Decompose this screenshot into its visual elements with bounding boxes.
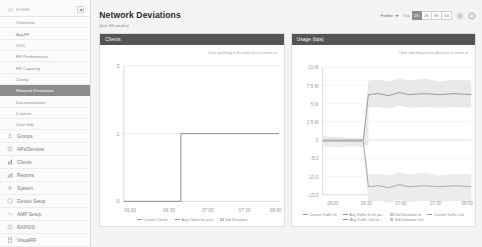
sidebar-item-label: System bbox=[17, 186, 33, 191]
folder-dropdown[interactable]: Folder bbox=[381, 13, 399, 18]
page-title: Network Deviations bbox=[99, 10, 181, 20]
sidebar-item-label: RAPIDS bbox=[17, 225, 35, 230]
sidebar-item-network-deviations[interactable]: Network Deviations bbox=[0, 85, 90, 96]
svg-text:07:30: 07:30 bbox=[239, 207, 251, 212]
legend-box-marker bbox=[220, 218, 223, 221]
panel-clients: Clients Click and drag in the plot area … bbox=[99, 33, 284, 227]
svg-text:06:30: 06:30 bbox=[360, 200, 372, 205]
sidebar-item-label: VisualRF bbox=[17, 238, 36, 243]
sidebar-item-visualrf[interactable]: VisualRF bbox=[0, 234, 90, 247]
svg-text:?: ? bbox=[471, 13, 474, 18]
legend-label: Avg Traffic Out for ... bbox=[350, 218, 384, 222]
svg-text:08:00: 08:00 bbox=[461, 200, 473, 205]
sidebar-item-overview[interactable]: Overview bbox=[0, 17, 90, 28]
sidebar-item-clients[interactable]: Clients bbox=[0, 156, 90, 169]
range-group-label: Top bbox=[403, 13, 410, 18]
device-setup-icon bbox=[7, 198, 13, 204]
legend-line-marker bbox=[303, 214, 308, 215]
groups-icon bbox=[7, 133, 13, 139]
sidebar-item-ucc[interactable]: UCC bbox=[0, 40, 90, 51]
range-button-2h[interactable]: 2h bbox=[412, 11, 422, 20]
clients-chart[interactable]: 2 1 0 06:00 06:30 07:00 07:30 08:00 bbox=[100, 45, 283, 217]
usage-chart[interactable]: 10 M 7.5 M 5 M 2.5 M 0 -5.0 -10.0 -15.0 bbox=[292, 45, 475, 212]
legend-box-marker bbox=[390, 213, 393, 216]
sidebar-header: HOME ◀ bbox=[0, 4, 90, 17]
legend-line-marker bbox=[427, 214, 432, 215]
sidebar-item-label: APs/Devices bbox=[17, 147, 44, 152]
clients-icon bbox=[7, 159, 13, 165]
svg-text:06:00: 06:00 bbox=[125, 207, 137, 212]
legend-item[interactable]: Current Traffic In bbox=[303, 213, 337, 217]
visualrf-icon bbox=[7, 237, 13, 243]
legend-item[interactable]: Current Traffic Out bbox=[427, 213, 464, 217]
chart-panels: Clients Click and drag in the plot area … bbox=[91, 28, 482, 227]
sidebar-item-apprf[interactable]: AppRF bbox=[0, 28, 90, 39]
legend-item[interactable]: Std Deviation bbox=[220, 218, 247, 222]
svg-text:-15.0: -15.0 bbox=[307, 192, 318, 197]
page-subtitle: (last 48 weeks) bbox=[99, 23, 181, 28]
svg-text:-10.0: -10.0 bbox=[307, 174, 318, 179]
sidebar-item-rapids[interactable]: RAPIDS bbox=[0, 221, 90, 234]
sidebar-item-documentation[interactable]: Documentation bbox=[0, 96, 90, 107]
svg-text:06:00: 06:00 bbox=[327, 200, 339, 205]
legend-dash-marker bbox=[343, 219, 348, 220]
legend-item[interactable]: Avg Traffic Out for ... bbox=[343, 218, 383, 222]
home-icon bbox=[8, 7, 13, 12]
device-icon bbox=[7, 146, 13, 152]
sidebar-item-system[interactable]: System bbox=[0, 182, 90, 195]
app-root: HOME ◀ Overview AppRF UCC RF Performance… bbox=[0, 0, 482, 247]
svg-text:08:00: 08:00 bbox=[270, 207, 282, 212]
panel-title-usage: Usage (bps) bbox=[292, 34, 475, 45]
rapids-icon bbox=[7, 224, 13, 230]
legend-item[interactable]: Avg Traffic In for pa... bbox=[343, 213, 385, 217]
gear-icon[interactable] bbox=[456, 12, 464, 20]
page-header: Network Deviations (last 48 weeks) Folde… bbox=[91, 0, 482, 28]
svg-text:5 M: 5 M bbox=[310, 101, 318, 106]
svg-text:-5.0: -5.0 bbox=[310, 156, 318, 161]
svg-text:10 M: 10 M bbox=[308, 65, 319, 70]
svg-text:07:00: 07:00 bbox=[395, 200, 407, 205]
sidebar-item-reports[interactable]: Reports bbox=[0, 169, 90, 182]
svg-text:2: 2 bbox=[117, 63, 120, 69]
legend-line-marker bbox=[137, 219, 142, 220]
range-button-8h[interactable]: 8h bbox=[432, 11, 442, 20]
legend-item[interactable]: Std Deviation In bbox=[390, 213, 421, 217]
sidebar-header-left: HOME bbox=[8, 7, 30, 12]
svg-text:07:00: 07:00 bbox=[202, 207, 214, 212]
sidebar: HOME ◀ Overview AppRF UCC RF Performance… bbox=[0, 0, 91, 247]
range-button-4h[interactable]: 4h bbox=[422, 11, 432, 20]
panel-body-clients[interactable]: Click and drag in the plot area to zoom … bbox=[100, 45, 283, 217]
sidebar-item-aps-devices[interactable]: APs/Devices bbox=[0, 143, 90, 156]
legend-item[interactable]: Current Clients bbox=[137, 218, 168, 222]
sidebar-item-groups[interactable]: Groups bbox=[0, 130, 90, 143]
legend-label: Std Deviation bbox=[225, 218, 247, 222]
folder-label: Folder bbox=[381, 13, 393, 18]
toolbar: Folder Top 2h 4h 8h 1d ? bbox=[381, 9, 476, 20]
svg-text:0: 0 bbox=[316, 138, 319, 143]
panel-title-clients: Clients bbox=[100, 34, 283, 45]
sidebar-item-label: AMP Setup bbox=[17, 212, 41, 217]
system-icon bbox=[7, 185, 13, 191]
legend-dash-marker bbox=[175, 219, 180, 220]
legend-item[interactable]: Std Deviation Out bbox=[390, 218, 424, 222]
legend-label: Std Deviation In bbox=[395, 213, 421, 217]
svg-text:2.5 M: 2.5 M bbox=[306, 119, 318, 124]
legend-label: Avg Traffic In for pa... bbox=[349, 213, 384, 217]
sidebar-item-user-info[interactable]: User Info bbox=[0, 119, 90, 130]
sidebar-item-amp-setup[interactable]: AMP Setup bbox=[0, 208, 90, 221]
svg-text:07:30: 07:30 bbox=[430, 200, 442, 205]
sidebar-item-clarity[interactable]: Clarity bbox=[0, 74, 90, 85]
range-button-1d[interactable]: 1d bbox=[442, 11, 452, 20]
legend-label: Current Traffic In bbox=[309, 213, 336, 217]
sidebar-item-rf-capacity[interactable]: RF Capacity bbox=[0, 62, 90, 73]
sidebar-item-rf-performance[interactable]: RF Performance bbox=[0, 51, 90, 62]
collapse-left-icon[interactable]: ◀ bbox=[77, 6, 84, 13]
sidebar-item-license[interactable]: License bbox=[0, 108, 90, 119]
sidebar-item-device-setup[interactable]: Device Setup bbox=[0, 195, 90, 208]
panel-body-usage[interactable]: Click and drag in the plot area to zoom … bbox=[292, 45, 475, 212]
svg-text:06:30: 06:30 bbox=[163, 207, 175, 212]
help-icon[interactable]: ? bbox=[468, 12, 476, 20]
sidebar-header-label: HOME bbox=[16, 7, 30, 12]
sidebar-item-label: Reports bbox=[17, 173, 34, 178]
legend-item[interactable]: Avg Clients for past bbox=[175, 218, 214, 222]
